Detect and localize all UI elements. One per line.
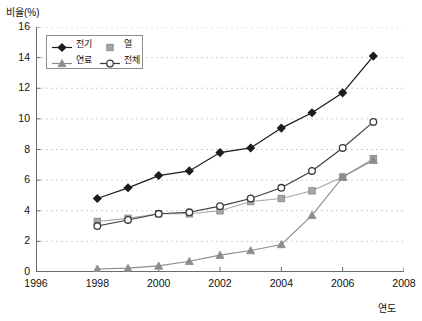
- data-point: [247, 144, 254, 151]
- chart-legend: 전기열연료전체: [46, 35, 143, 69]
- y-axis-title: 비율(%): [6, 4, 40, 19]
- filled-square-marker: [99, 39, 121, 50]
- series-line: [97, 56, 373, 198]
- data-point: [309, 168, 316, 175]
- data-point: [186, 167, 193, 174]
- y-tick-label: 12: [4, 81, 30, 93]
- data-point: [125, 217, 132, 224]
- x-tick-label: 1996: [16, 277, 56, 289]
- y-tick-label: 4: [4, 204, 30, 216]
- x-tick-label: 1998: [77, 277, 117, 289]
- x-tick-label: 2004: [261, 277, 301, 289]
- legend-item-전체[interactable]: 전체: [99, 52, 140, 69]
- chart-figure: 비율(%) 연도 0246810121416 19961998200020022…: [0, 0, 422, 321]
- y-tick-label: 8: [4, 143, 30, 155]
- y-tick-label: 16: [4, 20, 30, 32]
- series-열: [94, 155, 376, 224]
- data-point: [247, 195, 254, 202]
- x-tick-label: 2002: [200, 277, 240, 289]
- series-전체: [94, 119, 377, 230]
- series-line: [97, 160, 373, 269]
- data-point: [216, 149, 223, 156]
- data-point: [278, 195, 284, 201]
- legend-label: 전체: [124, 56, 140, 65]
- y-tick-label: 10: [4, 112, 30, 124]
- series-연료: [93, 156, 377, 272]
- filled-triangle-marker: [51, 55, 73, 66]
- legend-item-연료[interactable]: 연료: [51, 52, 92, 69]
- x-tick-label: 2000: [139, 277, 179, 289]
- y-tick-label: 2: [4, 234, 30, 246]
- legend-marker: [107, 60, 114, 67]
- legend-item-전기[interactable]: 전기: [51, 36, 92, 53]
- filled-diamond-marker: [51, 39, 73, 50]
- data-point: [278, 124, 285, 131]
- legend-marker: [107, 44, 113, 50]
- data-point: [155, 172, 162, 179]
- data-point: [186, 209, 193, 216]
- x-axis-title: 연도: [378, 300, 396, 315]
- data-point: [155, 211, 162, 218]
- x-tick-label: 2006: [323, 277, 363, 289]
- legend-marker: [58, 44, 65, 51]
- data-point: [94, 195, 101, 202]
- data-point: [124, 184, 131, 191]
- data-point: [370, 119, 377, 126]
- data-point: [309, 188, 315, 194]
- y-tick-label: 6: [4, 173, 30, 185]
- data-point: [94, 223, 101, 230]
- legend-label: 전기: [76, 40, 92, 49]
- y-tick-label: 14: [4, 51, 30, 63]
- open-circle-marker: [99, 55, 121, 66]
- data-point: [278, 184, 285, 191]
- data-point: [339, 145, 346, 152]
- legend-label: 열: [124, 40, 132, 49]
- y-tick-label: 0: [4, 265, 30, 277]
- legend-item-열[interactable]: 열: [99, 36, 132, 53]
- x-tick-label: 2008: [384, 277, 422, 289]
- legend-label: 연료: [76, 56, 92, 65]
- data-point: [217, 203, 224, 210]
- data-point: [308, 109, 315, 116]
